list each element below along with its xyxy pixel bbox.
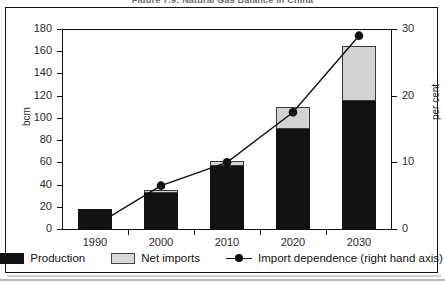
legend-item-net-imports: Net imports [111, 252, 200, 264]
y-axis-left-label: 20 [0, 201, 52, 212]
frame-shadow [7, 275, 441, 277]
y-axis-left-label: 40 [0, 179, 52, 190]
y-axis-right-tick [392, 29, 397, 30]
legend-swatch-production-icon [0, 253, 24, 264]
legend-label-import-dependence: Import dependence (right hand axis) [258, 252, 443, 264]
chart-legend: Production Net imports Import dependence… [5, 246, 438, 270]
y-axis-right-tick [392, 96, 397, 97]
y-axis-left-label: 180 [0, 23, 52, 34]
y-axis-right-label: 0 [402, 223, 445, 234]
y-axis-left-label: 140 [0, 67, 52, 78]
import-dependence-line [62, 29, 392, 230]
y-axis-right-tick [392, 229, 397, 230]
y-axis-left-label: 0 [0, 223, 52, 234]
y-axis-right-label: 20 [402, 90, 445, 101]
import-dependence-marker [223, 158, 232, 167]
y-axis-left-label: 80 [0, 134, 52, 145]
y-axis-left-label: 100 [0, 112, 52, 123]
y-axis-right-label: 10 [402, 156, 445, 167]
import-dependence-marker [91, 221, 100, 230]
figure-bottom-rule [0, 279, 445, 281]
x-axis-tick [326, 230, 327, 235]
legend-swatch-import-dependence-icon [226, 253, 252, 264]
legend-swatch-net-imports-icon [111, 253, 135, 264]
import-dependence-marker [289, 108, 298, 117]
y-axis-left-label: 120 [0, 90, 52, 101]
plot-area: 020406080100120140160180 0102030 1990200… [62, 29, 392, 230]
x-axis-tick [194, 230, 195, 235]
chart-frame: bcm per cent 020406080100120140160180 01… [5, 7, 438, 273]
import-dependence-polyline [95, 36, 359, 226]
y-axis-left-label: 60 [0, 156, 52, 167]
y-axis-right-label: 30 [402, 23, 445, 34]
x-axis-tick [128, 230, 129, 235]
y-axis-left-label: 160 [0, 45, 52, 56]
figure-container: Figure 7.9: Natural Gas Balance in China… [0, 0, 445, 282]
import-dependence-marker [355, 31, 364, 40]
legend-label-production: Production [30, 252, 85, 264]
legend-item-import-dependence: Import dependence (right hand axis) [226, 252, 443, 264]
legend-label-net-imports: Net imports [141, 252, 200, 264]
figure-title: Figure 7.9: Natural Gas Balance in China [0, 0, 445, 3]
import-dependence-marker [157, 181, 166, 190]
x-axis-tick [260, 230, 261, 235]
y-axis-right-tick [392, 162, 397, 163]
legend-item-production: Production [0, 252, 85, 264]
